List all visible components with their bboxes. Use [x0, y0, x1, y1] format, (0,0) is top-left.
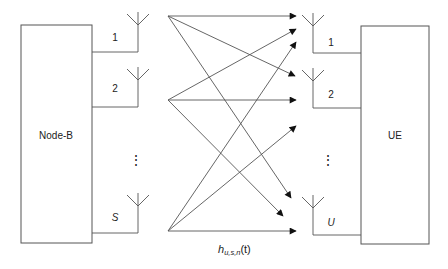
rx-feed-line-2 — [313, 81, 361, 108]
tx-antenna-label-1: 1 — [112, 32, 118, 43]
antenna-icon — [127, 67, 149, 80]
rx-antenna-label-1: 1 — [328, 37, 334, 48]
rx-ellipsis: ⋮ — [321, 152, 335, 168]
rx-antenna-1: 1 — [302, 13, 361, 53]
channel-label-subscript: u,s,n — [224, 248, 240, 257]
ue-block: UE — [361, 26, 429, 244]
tx-ellipsis: ⋮ — [129, 152, 143, 168]
antenna-icon — [302, 68, 324, 81]
rx-feed-line-u — [313, 208, 361, 235]
link-s-1 — [168, 42, 296, 231]
tx-antenna-2: 2 — [92, 67, 149, 107]
channel-label-arg: (t) — [240, 243, 250, 255]
link-1-2 — [168, 16, 295, 76]
link-s-2 — [168, 126, 296, 231]
rx-antenna-label-2: 2 — [328, 89, 334, 100]
channel-links — [168, 16, 296, 231]
link-2-1 — [168, 29, 296, 100]
channel-label: hu,s,n(t) — [218, 243, 251, 257]
ue-label: UE — [388, 130, 402, 141]
node-b-block: Node-B — [21, 25, 92, 243]
link-2-u — [168, 100, 283, 216]
rx-antenna-2: 2 — [302, 68, 361, 108]
antenna-icon — [127, 12, 149, 25]
tx-antenna-label-2: 2 — [112, 83, 118, 94]
tx-antenna-s: S — [92, 193, 149, 233]
mimo-diagram: Node-B 1 2 ⋮ S hu,s,n(t) 1 — [0, 0, 448, 269]
link-1-u — [168, 16, 291, 198]
antenna-icon — [302, 195, 324, 208]
rx-feed-line-1 — [313, 26, 361, 53]
rx-antenna-label-u: U — [327, 217, 335, 228]
tx-antenna-label-s: S — [112, 212, 119, 223]
node-b-label: Node-B — [39, 130, 73, 141]
antenna-icon — [127, 193, 149, 206]
rx-antenna-u: U — [302, 195, 361, 235]
tx-antenna-1: 1 — [92, 12, 149, 52]
antenna-icon — [302, 13, 324, 26]
